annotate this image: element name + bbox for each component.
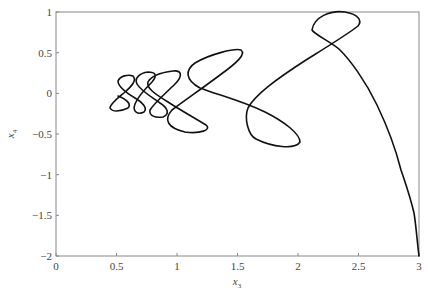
x-tick-label: 0 <box>53 260 59 272</box>
y-tick-label: 1 <box>47 6 53 18</box>
y-axis-ticks: 10.50−0.5−1−1.5−2 <box>32 6 59 262</box>
x-tick-label: 3 <box>416 260 422 272</box>
x-axis-label: x3 <box>232 275 242 290</box>
x-tick-label: 1 <box>174 260 180 272</box>
x-tick-label: 2.5 <box>352 260 366 272</box>
y-axis-label: x4 <box>4 129 19 139</box>
y-tick-label: −0.5 <box>32 128 52 140</box>
plot-frame <box>56 12 419 256</box>
x-tick-label: 0.5 <box>110 260 124 272</box>
x-tick-label: 1.5 <box>231 260 245 272</box>
y-tick-label: −2 <box>40 250 52 262</box>
y-tick-label: −1.5 <box>32 209 52 221</box>
trajectory-line <box>110 12 419 256</box>
y-tick-label: 0 <box>47 87 53 99</box>
y-tick-label: −1 <box>40 169 52 181</box>
x-tick-label: 2 <box>295 260 301 272</box>
phase-plot: 00.511.522.53 10.50−0.5−1−1.5−2 x3 x4 <box>0 0 428 299</box>
y-tick-label: 0.5 <box>38 47 52 59</box>
